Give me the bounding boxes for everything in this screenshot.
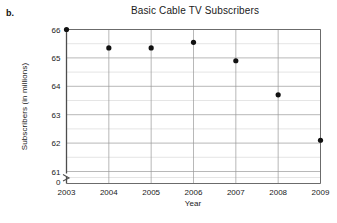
svg-text:2004: 2004 [100,188,118,197]
svg-text:2005: 2005 [142,188,160,197]
svg-text:2006: 2006 [185,188,203,197]
svg-text:2007: 2007 [227,188,245,197]
svg-text:65: 65 [52,54,61,63]
data-point [276,92,281,97]
data-point [149,45,154,50]
svg-text:61: 61 [52,168,61,177]
figure-container: b. Basic Cable TV Subscribers Subscriber… [0,0,337,223]
svg-text:2008: 2008 [269,188,287,197]
y-tick-labels: 6665646362610 [52,26,61,187]
svg-text:2003: 2003 [58,188,76,197]
data-point [64,27,69,32]
data-point [191,40,196,45]
svg-text:64: 64 [52,82,61,91]
svg-text:2009: 2009 [312,188,330,197]
vertical-gridlines [109,30,321,184]
svg-text:0: 0 [56,178,61,187]
x-tick-labels: 2003200420052006200720082009 [58,188,330,197]
scatter-plot: 6665646362610 20032004200520062007200820… [0,0,337,223]
data-point [233,58,238,63]
data-point [106,45,111,50]
svg-text:62: 62 [52,139,61,148]
data-point [318,138,323,143]
svg-text:66: 66 [52,26,61,35]
svg-text:63: 63 [52,111,61,120]
